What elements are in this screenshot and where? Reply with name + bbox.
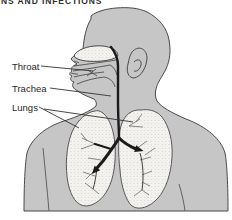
lungs-label: Lungs [12,102,38,113]
respiratory-system-diagram: Throat Trachea Lungs [0,0,232,220]
figure-panel: NS AND INFECTIONS [0,0,232,220]
trachea-label: Trachea [12,83,47,94]
throat-label: Throat [12,61,40,72]
